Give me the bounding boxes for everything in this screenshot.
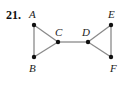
vertex-labels: ABCDEF [28, 8, 117, 74]
vertices [32, 23, 113, 59]
vertex-C [56, 40, 60, 44]
problem-number: 21. [6, 8, 21, 22]
vertex-label-E: E [107, 8, 115, 20]
vertex-E [109, 23, 113, 27]
vertex-F [109, 55, 113, 59]
vertex-label-B: B [29, 62, 36, 74]
vertex-A [32, 23, 36, 27]
vertex-label-F: F [109, 62, 117, 74]
graph-diagram: 21. ABCDEF [0, 0, 129, 85]
edge-BC [34, 42, 58, 57]
vertex-B [32, 55, 36, 59]
vertex-label-D: D [81, 26, 90, 38]
edge-DF [88, 42, 111, 57]
vertex-label-A: A [28, 8, 36, 20]
edges [34, 25, 111, 57]
vertex-label-C: C [55, 26, 63, 38]
vertex-D [86, 40, 90, 44]
edge-DE [88, 25, 111, 42]
